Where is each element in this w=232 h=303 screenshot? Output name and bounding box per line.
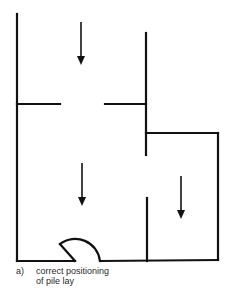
caption-label: a) xyxy=(16,266,36,276)
arrow-down-icon xyxy=(78,163,86,206)
door-leaf xyxy=(60,244,75,261)
figure-caption: a)correct positioning of pile lay xyxy=(16,266,109,286)
caption-line-1: a)correct positioning xyxy=(16,266,109,276)
arrow-down-icon xyxy=(177,176,185,219)
caption-line-2: of pile lay xyxy=(16,276,109,286)
bottom-wall-right xyxy=(100,260,218,261)
caption-text-1: correct positioning xyxy=(36,266,109,276)
arrow-down-icon xyxy=(77,22,85,65)
floor-plan-diagram xyxy=(0,0,232,303)
